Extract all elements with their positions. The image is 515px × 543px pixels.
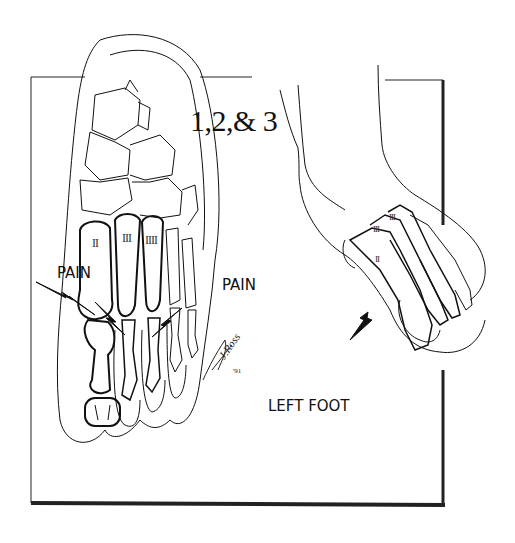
signature-year: '91 bbox=[233, 367, 241, 375]
metatarsal-label: III bbox=[373, 224, 379, 234]
pain-label-left: PAIN bbox=[57, 264, 91, 282]
figure-title: 1,2,& 3 bbox=[190, 104, 277, 138]
pain-bolt-icon bbox=[36, 282, 95, 315]
right-foot-drawing bbox=[280, 65, 485, 353]
pain-bolt-icon bbox=[350, 312, 372, 340]
pain-label-right: PAIN bbox=[222, 276, 256, 294]
metatarsal-label: III bbox=[122, 231, 131, 246]
metatarsal-label: IIII bbox=[145, 233, 157, 248]
metatarsal-label: II bbox=[92, 236, 98, 251]
figure-caption: LEFT FOOT bbox=[268, 397, 350, 415]
metatarsal-label: II bbox=[375, 254, 379, 264]
pain-arrow-icons bbox=[36, 282, 372, 340]
left-foot-drawing bbox=[57, 35, 219, 443]
metatarsal-label: III bbox=[389, 212, 395, 222]
